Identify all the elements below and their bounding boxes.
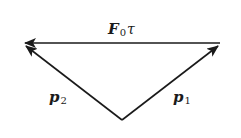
label-f-sub: 0 [120, 27, 126, 38]
label-p1-main: p [173, 88, 184, 106]
label-f-main: F [108, 20, 119, 38]
label-tau: τ [127, 21, 135, 37]
label-p1-sub: 1 [185, 95, 191, 106]
label-p2-main: p [49, 88, 60, 106]
label-f0tau: F0τ [108, 21, 135, 38]
label-p2-sub: 2 [61, 95, 67, 106]
label-p1: p1 [173, 89, 191, 106]
label-p2: p2 [49, 89, 67, 106]
vector-p2-arrow [26, 46, 122, 120]
vector-p1-arrow [122, 46, 218, 120]
